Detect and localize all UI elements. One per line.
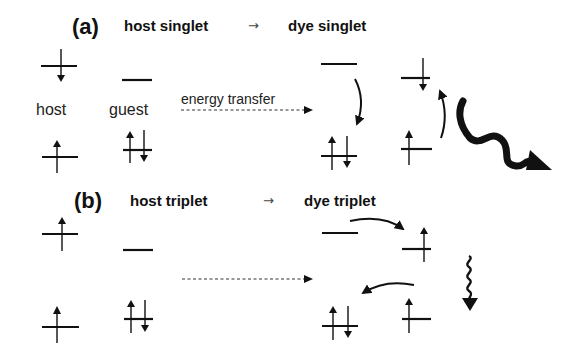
energy-transfer-arrow-icon	[181, 106, 313, 114]
excitation-arrow-icon	[440, 91, 445, 138]
guest-label: guest	[109, 101, 149, 118]
panel-a-arrow: →	[248, 18, 259, 33]
host-upper-level-spin-down-icon	[41, 49, 77, 82]
dye-triplet-upper-spin-up-icon	[402, 227, 431, 262]
dye-excited-lower-spin-up-icon	[401, 130, 432, 165]
triplet-transfer-arrow-icon	[182, 275, 313, 283]
host-label: host	[36, 101, 67, 118]
host-lower-level-spin-up-icon	[42, 140, 78, 173]
phosphorescence-wavy-arrow-icon	[462, 256, 478, 311]
dye-triplet-lower-paired-spins-icon	[322, 306, 358, 340]
host-triplet-lower-spin-up-icon	[42, 306, 79, 343]
guest-triplet-lower-paired-spins-icon	[124, 300, 153, 333]
energy-transfer-diagram: (a) host singlet → dye singlet host gues…	[0, 0, 578, 360]
guest-lower-level-paired-spins-icon	[123, 130, 152, 163]
panel-b-arrow: →	[263, 193, 274, 208]
fluorescence-wavy-arrow-icon	[460, 101, 552, 170]
dye-lower-level-paired-spins-icon	[321, 136, 357, 170]
dye-excited-upper-spin-down-icon	[401, 58, 430, 91]
relaxation-arrow-icon	[355, 79, 361, 124]
dye-triplet-lower-spin-up-icon	[402, 298, 431, 333]
panel-a-from-label: host singlet	[124, 17, 208, 34]
panel-b: (b) host triplet → dye triplet	[42, 188, 478, 343]
return-arrow-icon	[363, 283, 414, 293]
panel-a: (a) host singlet → dye singlet host gues…	[36, 14, 552, 173]
energy-transfer-label: energy transfer	[181, 91, 275, 107]
panel-b-label: (b)	[74, 188, 102, 213]
panel-b-from-label: host triplet	[130, 192, 208, 209]
host-triplet-upper-spin-up-icon	[42, 217, 78, 251]
panel-b-to-label: dye triplet	[304, 192, 376, 209]
intersystem-arrow-icon	[350, 219, 403, 229]
panel-a-to-label: dye singlet	[288, 17, 366, 34]
panel-a-label: (a)	[72, 14, 99, 39]
